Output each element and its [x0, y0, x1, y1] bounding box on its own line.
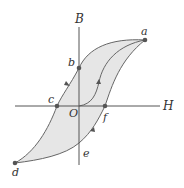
label-c: c: [48, 93, 54, 106]
h-axis-label: H: [162, 99, 174, 113]
label-f: f: [102, 111, 109, 124]
label-d: d: [12, 166, 19, 179]
label-a: a: [141, 25, 148, 38]
hysteresis-diagram: B H O a b c d e f: [0, 0, 184, 188]
point-b: [77, 66, 82, 71]
b-axis-label: B: [74, 12, 84, 26]
point-c: [55, 104, 60, 109]
loop-area: [15, 40, 145, 163]
label-b: b: [68, 56, 75, 69]
label-e: e: [83, 147, 90, 160]
point-d: [13, 161, 18, 166]
point-a: [143, 38, 148, 43]
point-f: [103, 104, 108, 109]
arrow-icon: [64, 81, 70, 86]
origin-label: O: [69, 107, 78, 120]
